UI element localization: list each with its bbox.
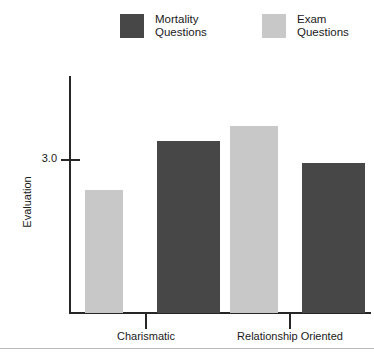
bar xyxy=(157,141,220,313)
y-axis-tick-label-3-0: 3.0 xyxy=(31,152,57,164)
bar-chart-figure: Mortality Questions Exam Questions 3.0 E… xyxy=(0,0,374,355)
x-axis-tick-relationship-oriented xyxy=(289,312,291,329)
y-axis-line xyxy=(69,76,71,314)
x-axis-label-charismatic: Charismatic xyxy=(117,330,175,342)
x-axis-label-relationship-oriented: Relationship Oriented xyxy=(237,330,343,342)
bar xyxy=(302,163,365,313)
footer-divider xyxy=(0,348,374,349)
bar xyxy=(230,126,278,313)
plot-area: 3.0 Evaluation Charismatic Relationship … xyxy=(0,0,374,355)
bar xyxy=(85,190,123,313)
x-axis-tick-charismatic xyxy=(145,312,147,329)
y-axis-tick-mark xyxy=(61,159,80,161)
y-axis-title: Evaluation xyxy=(21,162,33,242)
